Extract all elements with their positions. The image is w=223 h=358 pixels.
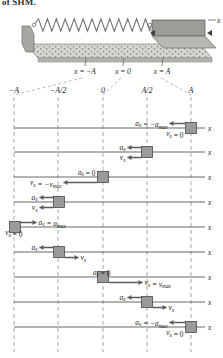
velocity-arrow-head [163,305,167,310]
cut-heading: of SHM. [2,0,36,7]
axis-label-x: x [207,248,212,257]
position-mark-2: x = A [153,67,171,76]
acceleration-label-text: ax [119,293,126,303]
velocity-label-text: vx = 0 [5,228,23,239]
velocity-label-text: vx [81,253,87,263]
block [54,247,65,258]
axis-label-x: x [207,323,212,332]
acceleration-label: ax [119,293,126,303]
spring-left-hook [32,23,36,27]
velocity-label: vx [120,153,126,163]
axis-label-x: x [207,124,212,133]
acceleration-label: ax = amax [39,218,67,229]
acceleration-label-text: ax [119,143,126,153]
row-6: xaxvx [14,243,212,263]
position-mark-label-2: x = A [153,67,171,76]
row-3: xax = 0vx = −vmax [14,168,212,189]
acceleration-arrow-head [128,145,132,150]
shm-figure: of SHM. xx = −Ax = 0x = A −A−A/20A/2A xa… [0,0,223,358]
block [142,147,153,158]
acceleration-label: ax [31,193,38,203]
column-header-4: A [188,86,194,95]
apparatus-axis-label: x [216,16,221,25]
acceleration-arrow-head [128,295,132,300]
acceleration-arrow-head [40,245,44,250]
row-8: xaxvx [14,293,212,313]
velocity-label-text: vx = −vmax [30,178,62,189]
velocity-arrow-head [75,255,79,260]
velocity-arrow-head [139,280,143,285]
column-headers: −A−A/20A/2A [9,86,194,95]
acceleration-label: ax = −amax [135,318,168,329]
column-header-3: A/2 [140,86,152,95]
figure-canvas: xx = −Ax = 0x = A −A−A/20A/2A xax = −ama… [0,0,223,358]
column-header-2: 0 [101,86,105,95]
row-9: xax = −amaxvx = 0 [14,318,212,339]
axis-label-x: x [207,298,212,307]
position-mark-label-0: x = −A [73,67,96,76]
velocity-label: vx = 0 [5,228,23,239]
apparatus-group: xx = −Ax = 0x = A [22,16,221,77]
air-track-edge [38,58,212,62]
glider-block-base [152,36,216,48]
acceleration-label-text: ax = amax [39,218,67,229]
axis-label-x: x [207,148,212,157]
velocity-label-text: vx [169,303,175,313]
leader-line-2 [161,78,191,95]
row-7: xax = 0vx = vmax [14,268,212,289]
position-mark-1: x = 0 [114,67,131,76]
wall-bracket [22,26,34,52]
acceleration-label-text: ax [31,243,38,253]
velocity-arrow-head [40,205,44,210]
acceleration-arrow-head [170,121,174,126]
block [186,322,197,333]
block [54,197,65,208]
acceleration-arrow-head [170,320,174,325]
column-header-1: −A/2 [50,86,67,95]
velocity-label-text: vx [120,153,126,163]
leader-line-0 [14,78,82,95]
acceleration-arrow-head [33,220,37,225]
row-2: xaxvx [14,143,212,163]
velocity-label: vx = 0 [166,328,184,339]
axis-label-x: x [207,223,212,232]
position-mark-0: x = −A [73,67,96,76]
spring-right-hook [148,23,152,27]
velocity-label-text: vx = 0 [166,129,184,140]
block [142,297,153,308]
velocity-label-text: vx = vmax [145,278,172,289]
acceleration-label: ax [119,143,126,153]
velocity-label-text: vx = 0 [166,328,184,339]
axis-label-x: x [207,198,212,207]
velocity-arrow-head [64,180,68,185]
velocity-label: vx = 0 [166,129,184,140]
velocity-label: vx [169,303,175,313]
axis-label-x: x [207,173,212,182]
block [186,123,197,134]
acceleration-label: ax [31,243,38,253]
spring [34,19,150,31]
acceleration-label-text: ax = −amax [135,318,168,329]
velocity-label-text: vx [32,203,38,213]
row-1: xax = −amaxvx = 0 [14,119,212,140]
acceleration-arrow-head [40,195,44,200]
row-5: xax = amaxvx = 0 [5,218,212,239]
velocity-label: vx = vmax [145,278,172,289]
acceleration-label-text: ax = −amax [135,119,168,130]
row-4: xaxvx [14,193,212,213]
velocity-label: vx = −vmax [30,178,62,189]
acceleration-label: ax = −amax [135,119,168,130]
velocity-arrow-head [128,155,132,160]
velocity-label: vx [32,203,38,213]
axis-label-x: x [207,273,212,282]
velocity-label: vx [81,253,87,263]
column-header-0: −A [9,86,19,95]
leader-line-1 [103,78,121,95]
row-group: xax = −amaxvx = 0xaxvxxax = 0vx = −vmaxx… [5,119,212,339]
position-mark-label-1: x = 0 [114,67,131,76]
acceleration-label-text: ax [31,193,38,203]
block [98,172,109,183]
